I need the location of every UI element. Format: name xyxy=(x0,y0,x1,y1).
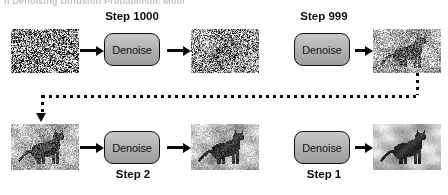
diffusion-pipeline-diagram: DenoiseDenoiseStep 1000Step 999DenoiseDe… xyxy=(0,0,448,195)
denoise-box: Denoise xyxy=(104,33,160,66)
cut-off-header-text: n Denoising Diffusion Probabilistic Mode… xyxy=(4,0,184,6)
denoise-box-label: Denoise xyxy=(302,44,342,56)
step-label: Step 1000 xyxy=(97,10,167,22)
step-label: Step 999 xyxy=(289,10,359,22)
flow-arrow xyxy=(80,146,97,149)
flow-arrow xyxy=(167,146,184,149)
step-label: Step 2 xyxy=(105,168,161,180)
denoise-box-label: Denoise xyxy=(112,142,152,154)
image-noisy-cat-clearer xyxy=(373,29,441,73)
flow-arrow xyxy=(355,146,366,149)
image-noise-pure xyxy=(11,29,79,73)
flow-arrow xyxy=(167,49,184,52)
feedback-arrow-horizontal xyxy=(42,95,419,98)
denoise-box-label: Denoise xyxy=(112,44,152,56)
feedback-arrow-left-drop xyxy=(41,95,44,115)
flow-arrow xyxy=(355,49,366,52)
feedback-arrow-head xyxy=(36,113,46,122)
image-cat-clean xyxy=(373,124,441,170)
image-cat-less-noise xyxy=(191,124,259,170)
image-cat-slight-noise xyxy=(11,124,79,170)
denoise-box: Denoise xyxy=(294,33,350,66)
feedback-arrow-right-drop xyxy=(416,73,419,95)
denoise-box: Denoise xyxy=(104,131,160,164)
denoise-box-label: Denoise xyxy=(302,142,342,154)
step-label: Step 1 xyxy=(296,168,352,180)
flow-arrow xyxy=(80,49,97,52)
image-noisy-cat-faint xyxy=(191,29,259,73)
denoise-box: Denoise xyxy=(294,131,350,164)
